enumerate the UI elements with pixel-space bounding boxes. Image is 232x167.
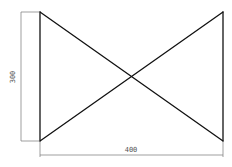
vertical-dimension: [21, 12, 40, 141]
horizontal-dimension-label: 400: [125, 146, 138, 154]
bowtie-shape: [40, 12, 223, 141]
vertical-dimension-label: 300: [9, 71, 17, 84]
technical-drawing: 300 400: [0, 0, 232, 167]
